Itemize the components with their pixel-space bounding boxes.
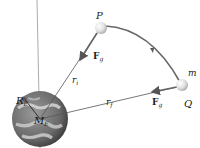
force-vector-at-q	[152, 87, 177, 92]
diagram-canvas	[0, 0, 200, 148]
force-label-p: Fg	[93, 52, 103, 62]
point-p-label: P	[96, 11, 103, 21]
initial-distance-label: ri	[72, 76, 78, 86]
earth-radius-label: RE	[16, 96, 28, 107]
point-q-label: Q	[184, 99, 192, 109]
force-label-q: Fg	[152, 98, 162, 108]
mass-label: m	[188, 69, 197, 78]
particle-at-q	[176, 79, 188, 91]
trajectory-direction-arrow	[150, 48, 154, 53]
earth-mass-label: ME	[34, 116, 49, 127]
final-distance-label: rf	[106, 98, 113, 108]
trajectory-path	[105, 26, 180, 82]
particle-at-p	[95, 22, 107, 34]
